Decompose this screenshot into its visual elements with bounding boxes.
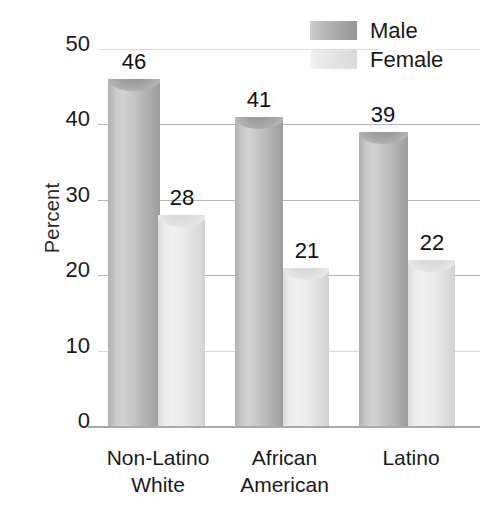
value-label-female-african-american: 21 (281, 240, 333, 262)
category-label-line1: African (252, 446, 317, 469)
value-label-female-non-latino-white: 28 (156, 187, 208, 209)
legend-label-male: Male (370, 18, 418, 44)
bar-chart: Percent 50 40 30 20 10 0 46 28 (0, 0, 499, 509)
axis-baseline (88, 426, 480, 428)
bar-female-latino (408, 260, 455, 426)
y-tick-40: 40 (44, 108, 90, 130)
bar-body (408, 260, 455, 426)
bar-cylinder-cap (158, 215, 205, 237)
y-tick-20: 20 (44, 259, 90, 281)
bar-body (108, 79, 160, 426)
x-axis-category-labels: Non-Latino White African American Latino (98, 440, 480, 506)
value-label-male-african-american: 41 (233, 89, 285, 111)
bar-body (283, 268, 329, 426)
y-tick-50: 50 (44, 33, 90, 55)
legend-item-female: Female (310, 45, 490, 74)
legend-swatch-female-icon (310, 50, 357, 69)
y-tick-10: 10 (44, 335, 90, 357)
category-label-line1: Latino (382, 446, 439, 469)
bar-male-non-latino-white (108, 79, 160, 426)
bar-cylinder-cap (408, 260, 455, 282)
value-label-female-latino: 22 (406, 232, 458, 254)
category-label-line1: Non-Latino (107, 446, 210, 469)
category-label-african-american: African American (222, 444, 347, 499)
category-label-line2: White (98, 471, 218, 498)
legend-swatch-male-icon (310, 21, 357, 40)
bar-female-non-latino-white (158, 215, 205, 426)
legend: Male Female (310, 16, 490, 74)
legend-label-female: Female (370, 47, 443, 73)
value-label-male-latino: 39 (357, 104, 409, 126)
category-label-line2: American (222, 471, 347, 498)
bar-cylinder-cap (235, 117, 283, 139)
y-tick-30: 30 (44, 184, 90, 206)
category-label-non-latino-white: Non-Latino White (98, 444, 218, 499)
bar-male-latino (359, 132, 408, 426)
legend-item-male: Male (310, 16, 490, 45)
bar-body (158, 215, 205, 426)
bar-male-african-american (235, 117, 283, 426)
y-tick-0: 0 (44, 410, 90, 432)
bar-body (235, 117, 283, 426)
bar-cylinder-cap (359, 132, 408, 154)
plot-area: 46 28 41 21 39 22 (98, 0, 480, 509)
bar-female-african-american (283, 268, 329, 426)
bar-body (359, 132, 408, 426)
bar-cylinder-cap (108, 79, 160, 101)
bar-cylinder-cap (283, 268, 329, 290)
y-axis-tick-labels: 50 40 30 20 10 0 (44, 0, 90, 509)
category-label-latino: Latino (356, 444, 466, 471)
value-label-male-non-latino-white: 46 (108, 51, 160, 73)
